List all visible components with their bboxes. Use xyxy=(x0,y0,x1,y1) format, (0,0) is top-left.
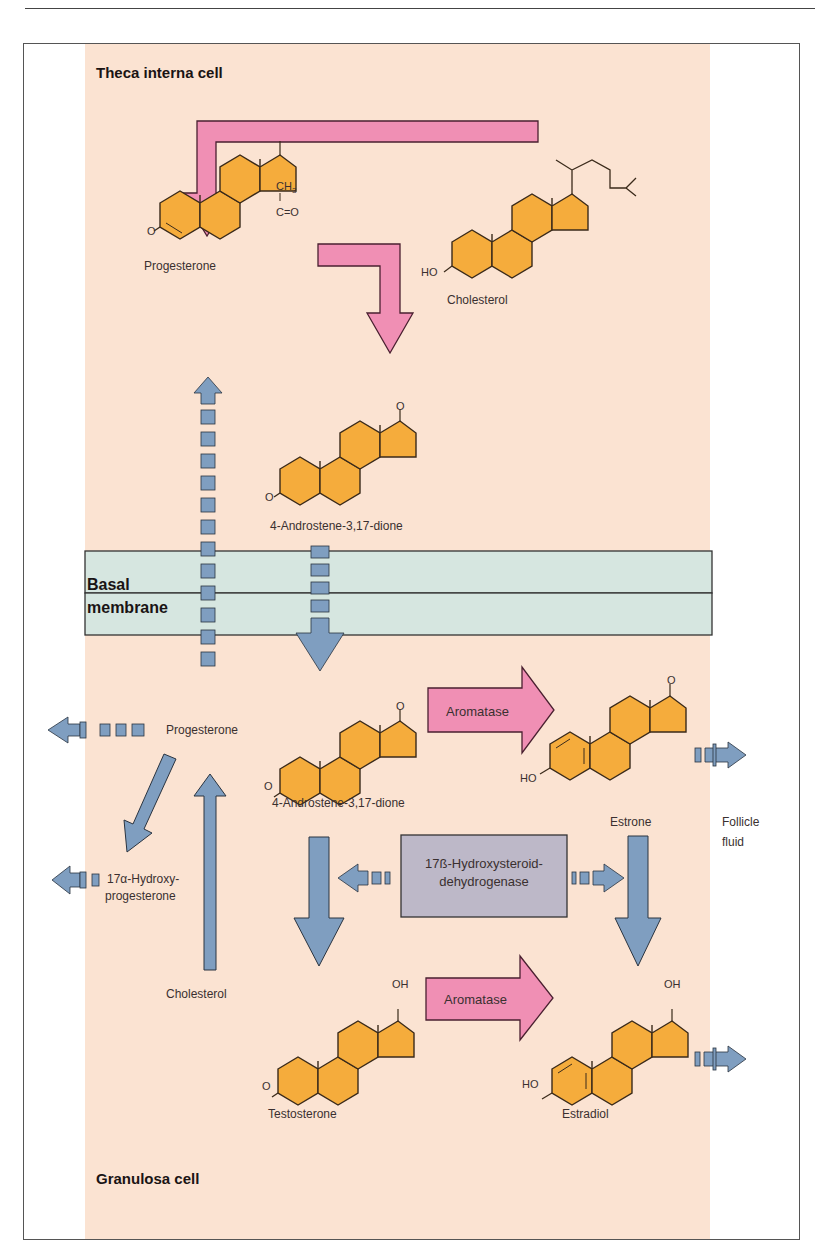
granulosa-label: Granulosa cell xyxy=(96,1170,199,1187)
export-arrow-estradiol xyxy=(695,1046,746,1072)
theca-label: Theca interna cell xyxy=(96,64,223,81)
progesterone-structure xyxy=(154,141,296,239)
co-label: C=O xyxy=(276,206,299,218)
o-label: O xyxy=(265,491,274,503)
follicle-label: Follicle xyxy=(722,815,760,829)
aromatase-label-2: Aromatase xyxy=(444,992,507,1007)
oh-label: OH xyxy=(392,978,409,990)
export-arrow-estrone xyxy=(695,742,746,768)
arrow-cholesterol-to-progesterone xyxy=(194,774,226,970)
hsd-dashed-arrow-right xyxy=(572,864,624,892)
oh-label: OH xyxy=(664,978,681,990)
hsd-label-1: 17ß-Hydroxysteroid- xyxy=(425,856,543,871)
androstenedione-gran-label: 4-Androstene-3,17-dione xyxy=(272,796,405,810)
o-label: O xyxy=(667,674,676,686)
estradiol-structure xyxy=(542,1009,688,1105)
hydroxyprogesterone-label-2: progesterone xyxy=(105,889,176,903)
testosterone-structure xyxy=(272,1009,414,1105)
cholesterol-top-label: Cholesterol xyxy=(447,293,508,307)
estrone-structure xyxy=(540,684,686,780)
ho-label: HO xyxy=(421,266,438,278)
cholesterol-gran-label: Cholesterol xyxy=(166,987,227,1001)
progesterone-top-label: Progesterone xyxy=(144,259,216,273)
basal-membrane-lower xyxy=(85,593,712,635)
basal-label: Basal xyxy=(87,576,130,593)
hsd-dashed-arrow-left xyxy=(338,864,390,892)
fluid-label: fluid xyxy=(722,835,744,849)
androstenedione-gran-structure xyxy=(274,709,416,805)
o-label: O xyxy=(264,780,273,792)
o-label: O xyxy=(262,1080,271,1092)
basal-membrane-upper xyxy=(85,551,712,593)
export-arrow-hydroxyprogesterone xyxy=(52,866,99,894)
export-arrow-progesterone xyxy=(48,717,144,743)
o-label: O xyxy=(396,700,405,712)
arrow-progesterone-to-hydroxyprogesterone xyxy=(124,754,176,852)
hsd-label-2: dehydrogenase xyxy=(439,874,529,889)
hydroxyprogesterone-label-1: 17α-Hydroxy- xyxy=(107,872,179,886)
ho-label: HO xyxy=(520,772,537,784)
arrow-estrone-to-estradiol xyxy=(615,836,661,966)
o-label: O xyxy=(147,225,156,237)
androstenedione-top-structure xyxy=(274,409,416,505)
pink-arrow-progesterone-to-androstenedione xyxy=(318,244,413,353)
testosterone-label: Testosterone xyxy=(268,1107,337,1121)
arrow-androstenedione-to-testosterone xyxy=(294,837,344,966)
androstenedione-top-label: 4-Androstene-3,17-dione xyxy=(270,519,403,533)
o-label: O xyxy=(396,400,405,412)
estradiol-label: Estradiol xyxy=(562,1107,609,1121)
progesterone-gran-label: Progesterone xyxy=(166,723,238,737)
membrane-label: membrane xyxy=(87,599,168,616)
aromatase-label-1: Aromatase xyxy=(446,704,509,719)
cholesterol-structure xyxy=(444,160,636,278)
ho-label: HO xyxy=(522,1078,539,1090)
estrone-label: Estrone xyxy=(610,815,652,829)
steroidogenesis-diagram: Theca interna cell Granulosa cell O CH3 … xyxy=(0,0,820,1255)
